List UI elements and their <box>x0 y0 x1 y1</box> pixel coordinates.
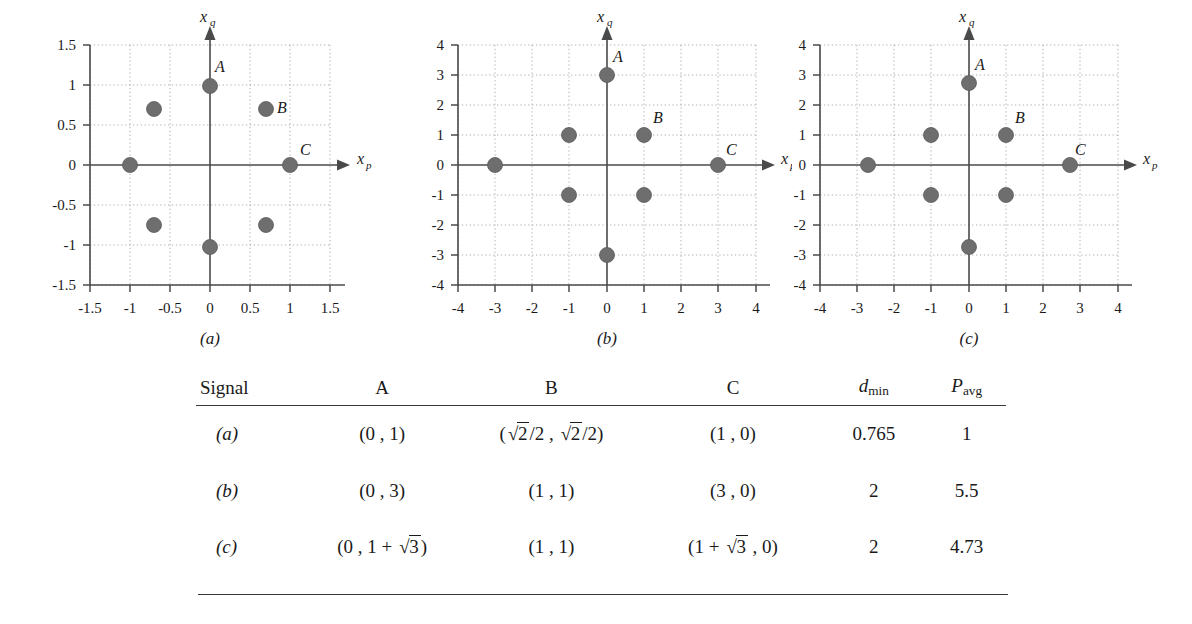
column-header-dmin: dmin <box>820 376 927 405</box>
svg-text:x: x <box>199 8 207 25</box>
y-ticklabel: -1.5 <box>52 277 76 293</box>
y-ticklabel: 3 <box>799 67 807 83</box>
cell-c: (3 , 0) <box>646 463 820 520</box>
point-label-a: A <box>612 48 623 65</box>
y-ticklabel: -3 <box>432 247 445 263</box>
cell-c: (1 , 0) <box>646 405 820 462</box>
x-ticks-a <box>90 285 330 292</box>
y-ticklabel: -2 <box>432 217 445 233</box>
table-row: (a) (0 , 1) (√2/2 , √2/2) (1 , 0) 0.765 … <box>196 405 1006 462</box>
y-ticklabel: 3 <box>437 67 445 83</box>
x-ticks-c <box>820 285 1118 292</box>
scatter-plot-b: A B C 4 3 2 1 0 -1 -2 -3 -4 -4 -3 -2 -1 … <box>392 0 792 360</box>
x-ticklabel: 1 <box>286 300 294 316</box>
y-ticklabel: 1 <box>69 77 77 93</box>
cell-dmin: 0.765 <box>820 405 927 462</box>
y-ticks-b <box>451 45 458 285</box>
y-ticklabel: 0 <box>69 157 77 173</box>
svg-text:q: q <box>607 16 613 28</box>
table-header-row: Signal A B C dmin Pavg <box>196 376 1006 405</box>
y-ticklabel: 1 <box>799 127 807 143</box>
y-ticklabel: -2 <box>794 217 807 233</box>
signal-table-wrapper: Signal A B C dmin Pavg (a) (0 , 1) (√2/2… <box>196 376 1006 576</box>
x-ticklabel: -3 <box>489 300 502 316</box>
x-ticklabel: -4 <box>452 300 465 316</box>
cell-a: (0 , 3) <box>307 463 456 520</box>
table-header: Signal A B C dmin Pavg <box>196 376 1006 405</box>
x-ticklabel: -1 <box>563 300 576 316</box>
pavg-symbol: P <box>951 375 963 396</box>
cell-signal: (a) <box>196 405 307 462</box>
x-ticklabel: -1 <box>925 300 938 316</box>
svg-text:x: x <box>596 8 604 25</box>
x-ticklabel: -1 <box>124 300 137 316</box>
svg-text:q: q <box>210 16 216 28</box>
column-header-b: B <box>457 376 646 405</box>
x-ticklabel: 4 <box>752 300 760 316</box>
x-ticklabel: -3 <box>851 300 864 316</box>
svg-text:p: p <box>365 159 372 171</box>
scatter-plot-a: A B C 1.5 1 0.5 0 -0.5 -1 -1.5 -1.5 -1 -… <box>0 0 400 360</box>
y-ticklabel: 1.5 <box>57 37 76 53</box>
y-ticklabel: 0.5 <box>57 117 76 133</box>
panel-caption-c: (c) <box>960 329 979 348</box>
y-ticklabel: 0 <box>437 157 445 173</box>
x-axis-title-c: x p <box>1142 150 1158 171</box>
column-header-a: A <box>307 376 456 405</box>
x-ticklabel: 2 <box>1039 300 1047 316</box>
x-axis-title-a: x p <box>356 150 372 171</box>
x-ticklabel: 0 <box>965 300 973 316</box>
cell-b: (1 , 1) <box>457 519 646 576</box>
table-body: (a) (0 , 1) (√2/2 , √2/2) (1 , 0) 0.765 … <box>196 405 1006 576</box>
column-header-c: C <box>646 376 820 405</box>
y-ticks-c <box>813 45 820 285</box>
y-ticklabel: -4 <box>432 277 445 293</box>
panel-caption-a: (a) <box>200 329 220 348</box>
svg-text:p: p <box>1151 159 1158 171</box>
dmin-subscript: min <box>868 383 889 398</box>
y-axis-title-b: x q <box>596 8 613 28</box>
x-ticklabel: 0 <box>603 300 611 316</box>
x-ticklabel: 1 <box>1002 300 1010 316</box>
table-bottom-rule <box>198 594 1008 595</box>
y-ticklabel: 4 <box>437 37 445 53</box>
x-ticklabel: 2 <box>677 300 685 316</box>
cell-dmin: 2 <box>820 463 927 520</box>
x-ticklabel: 1 <box>640 300 648 316</box>
y-ticklabel: -3 <box>794 247 807 263</box>
svg-text:q: q <box>969 16 975 28</box>
constellation-figure: A B C 1.5 1 0.5 0 -0.5 -1 -1.5 -1.5 -1 -… <box>0 0 1192 624</box>
y-ticklabel: -0.5 <box>52 197 76 213</box>
cell-a: (0 , 1) <box>307 405 456 462</box>
y-ticklabel: 1 <box>437 127 445 143</box>
svg-text:x: x <box>1142 150 1150 167</box>
x-ticklabel: -2 <box>888 300 901 316</box>
cell-dmin: 2 <box>820 519 927 576</box>
pavg-subscript: avg <box>963 383 982 398</box>
svg-text:x: x <box>958 8 966 25</box>
point-label-b: B <box>277 99 287 116</box>
point-label-b: B <box>653 109 663 126</box>
table-row: (b) (0 , 3) (1 , 1) (3 , 0) 2 5.5 <box>196 463 1006 520</box>
y-axis-title-c: x q <box>958 8 975 28</box>
x-ticks-b <box>458 285 756 292</box>
svg-text:x: x <box>356 150 364 167</box>
y-ticklabel: 2 <box>437 97 445 113</box>
x-ticklabel: 0 <box>206 300 214 316</box>
x-ticklabel: -0.5 <box>158 300 182 316</box>
x-ticklabel: 0.5 <box>241 300 260 316</box>
chart-panel-a: A B C 1.5 1 0.5 0 -0.5 -1 -1.5 -1.5 -1 -… <box>0 0 400 360</box>
cell-a: (0 , 1 + √3) <box>307 519 456 576</box>
scatter-plot-c: A B C 4 3 2 1 0 -1 -2 -3 -4 -4 -3 -2 -1 … <box>782 0 1192 360</box>
chart-panel-c: A B C 4 3 2 1 0 -1 -2 -3 -4 -4 -3 -2 -1 … <box>782 0 1192 360</box>
cell-pavg: 1 <box>927 405 1006 462</box>
column-header-pavg: Pavg <box>927 376 1006 405</box>
point-label-c: C <box>726 141 737 158</box>
x-ticklabel: 3 <box>1076 300 1084 316</box>
cell-b: (√2/2 , √2/2) <box>457 405 646 462</box>
y-ticks-a <box>83 45 90 285</box>
dmin-symbol: d <box>859 375 869 396</box>
cell-pavg: 4.73 <box>927 519 1006 576</box>
y-ticklabel: 0 <box>799 157 807 173</box>
y-ticklabel: 2 <box>799 97 807 113</box>
